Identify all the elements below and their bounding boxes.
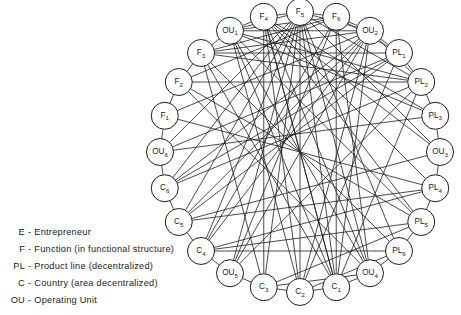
edge [277, 289, 286, 290]
edge [242, 278, 251, 282]
edge [437, 165, 438, 174]
legend: E-EntrepreneurF-Function (in functional … [0, 228, 215, 313]
edge [313, 289, 322, 290]
node-f1[interactable]: F1 [151, 102, 178, 129]
node-f3[interactable]: F3 [188, 40, 215, 67]
edge [381, 259, 389, 265]
legend-item-c: C-Country (area decentralized) [0, 279, 215, 296]
edge [277, 14, 286, 15]
legend-abbr: OU [0, 296, 25, 305]
node-f6[interactable]: F6 [323, 3, 350, 30]
edge [170, 94, 174, 103]
node-pl3[interactable]: PL3 [422, 102, 449, 129]
legend-abbr: F [0, 245, 25, 254]
node-pl6[interactable]: PL6 [385, 237, 412, 264]
edge [426, 201, 430, 210]
edge [407, 233, 413, 241]
node-f5[interactable]: F5 [287, 0, 314, 26]
node-ou4[interactable]: OU4 [357, 260, 384, 287]
legend-text: Product line (decentralized) [34, 262, 215, 271]
node-ou5[interactable]: OU5 [217, 260, 244, 287]
legend-item-pl: PL-Product line (decentralized) [0, 262, 215, 279]
legend-text: Function (in functional structure) [34, 245, 215, 254]
node-ou2[interactable]: OU2 [357, 17, 384, 44]
legend-item-e: E-Entrepreneur [0, 228, 215, 245]
node-c6[interactable]: C6 [151, 175, 178, 202]
edge [407, 64, 413, 72]
edge [206, 24, 295, 238]
edge [313, 14, 322, 15]
edge [437, 129, 438, 138]
edge [303, 25, 366, 260]
node-pl4[interactable]: PL4 [422, 175, 449, 202]
legend-abbr: E [0, 228, 25, 237]
legend-dash: - [25, 262, 34, 271]
edge [381, 39, 389, 45]
edge [240, 40, 412, 212]
node-ou1[interactable]: OU1 [217, 17, 244, 44]
node-pl1[interactable]: PL1 [385, 40, 412, 67]
legend-text: Country (area decentralized) [34, 279, 215, 288]
node-pl2[interactable]: PL2 [408, 69, 435, 96]
edge [212, 39, 220, 45]
legend-text: Entrepreneur [34, 228, 215, 237]
legend-dash: - [25, 245, 34, 254]
legend-item-ou: OU-Operating Unit [0, 296, 215, 313]
edge [162, 129, 163, 138]
legend-dash: - [25, 228, 34, 237]
node-f4[interactable]: F4 [250, 3, 277, 30]
node-f2[interactable]: F2 [165, 69, 192, 96]
edge [233, 44, 296, 279]
legend-dash: - [25, 279, 34, 288]
legend-abbr: PL [0, 262, 25, 271]
legend-item-f: F-Function (in functional structure) [0, 245, 215, 262]
legend-dash: - [25, 296, 34, 305]
node-c2[interactable]: C2 [287, 279, 314, 306]
edge [173, 118, 421, 151]
legend-text: Operating Unit [34, 296, 215, 305]
edge [349, 278, 358, 282]
node-ou6[interactable]: OU6 [147, 139, 174, 166]
node-c3[interactable]: C3 [250, 274, 277, 301]
edge [170, 201, 174, 210]
edge [162, 165, 163, 174]
node-c1[interactable]: C1 [323, 274, 350, 301]
edge [187, 64, 193, 72]
edge [426, 94, 430, 103]
node-pl5[interactable]: PL5 [408, 209, 435, 236]
edge [209, 41, 362, 240]
node-ou3[interactable]: OU3 [427, 139, 454, 166]
legend-abbr: C [0, 279, 25, 288]
